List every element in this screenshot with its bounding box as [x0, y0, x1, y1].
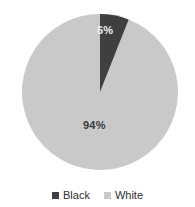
- pie-chart: 6% 94% Black White: [0, 0, 195, 207]
- chart-legend: Black White: [0, 186, 195, 204]
- legend-label-black: Black: [63, 190, 90, 201]
- pie-slice-label-white: 94%: [83, 119, 106, 131]
- legend-label-white: White: [115, 190, 143, 201]
- legend-item-white[interactable]: White: [104, 190, 143, 201]
- legend-item-black[interactable]: Black: [52, 190, 90, 201]
- pie-slice-label-black: 6%: [97, 24, 113, 36]
- legend-swatch-black-icon: [52, 192, 59, 199]
- pie-plot-area: 6% 94%: [0, 0, 195, 180]
- legend-swatch-white-icon: [104, 192, 111, 199]
